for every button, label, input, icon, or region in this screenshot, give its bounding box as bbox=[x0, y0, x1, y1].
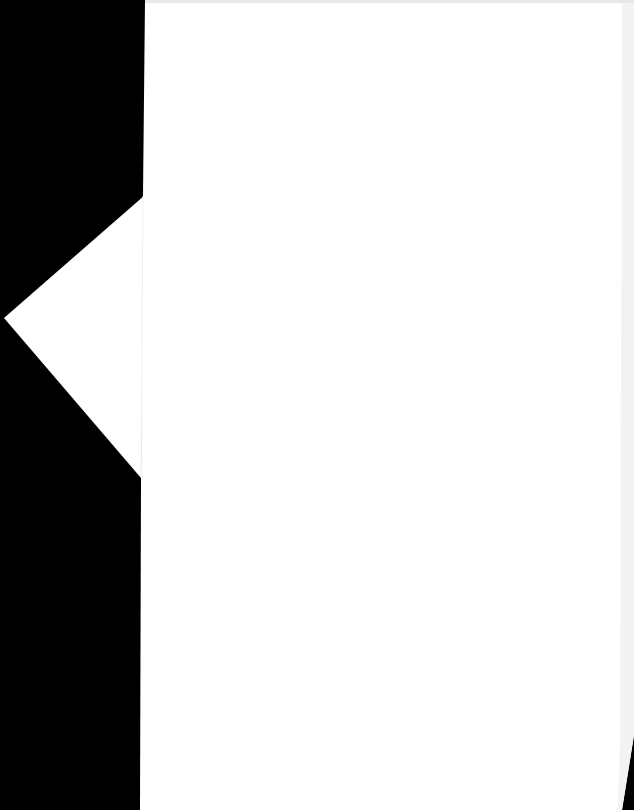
paper-sheet-shape bbox=[140, 0, 634, 810]
blank-paper-sheet bbox=[0, 0, 634, 810]
paper-top-edge bbox=[145, 0, 634, 3]
photo-canvas bbox=[0, 0, 634, 810]
paper-left-flap bbox=[4, 195, 145, 478]
